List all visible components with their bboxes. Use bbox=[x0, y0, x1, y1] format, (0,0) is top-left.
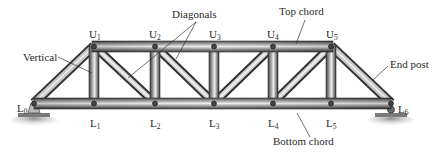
callout-end-post: End post bbox=[390, 59, 429, 70]
callout-top-chord: Top chord bbox=[279, 6, 324, 17]
node-label-l3: L3 bbox=[209, 118, 219, 131]
node-label-l6: L6 bbox=[398, 104, 408, 117]
callout-bottom-chord: Bottom chord bbox=[273, 136, 334, 147]
truss-drawing bbox=[0, 0, 439, 154]
callout-vertical: Vertical bbox=[23, 52, 57, 63]
node-label-l4: L4 bbox=[268, 118, 278, 131]
node-label-u1: U1 bbox=[89, 29, 101, 42]
node-label-u5: U5 bbox=[326, 29, 338, 42]
node-label-l5: L5 bbox=[326, 118, 336, 131]
node-label-u2: U2 bbox=[149, 29, 161, 42]
node-label-u4: U4 bbox=[267, 29, 279, 42]
callout-leaders bbox=[58, 20, 388, 137]
callout-diagonals: Diagonals bbox=[172, 9, 217, 20]
node-label-l1: L1 bbox=[90, 118, 100, 131]
node-label-l0: L0 bbox=[17, 103, 27, 116]
truss-diagram: Vertical Diagonals Top chord End post Bo… bbox=[0, 0, 439, 154]
node-label-l2: L2 bbox=[150, 118, 160, 131]
node-label-u3: U3 bbox=[209, 29, 221, 42]
